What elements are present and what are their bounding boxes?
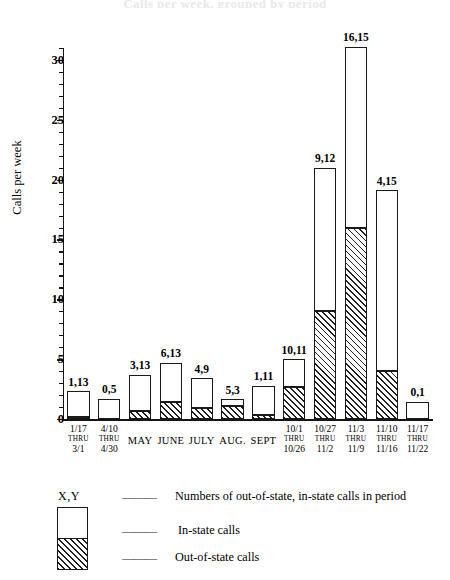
bar: 16,15 — [345, 47, 367, 419]
y-tick-label: 30 — [30, 54, 64, 67]
y-tick-label: 5 — [30, 353, 64, 366]
x-axis-label: 11/3THRU11/9 — [341, 424, 372, 455]
bar-segment-out-of-state — [67, 417, 89, 419]
x-axis-label-line2: THRU — [310, 435, 341, 444]
bar-value-label: 10,11 — [282, 345, 307, 357]
bar-segment-in-state — [67, 391, 89, 417]
bar: 0,5 — [98, 399, 120, 419]
legend-dash-2: ——— — [122, 524, 157, 539]
bar: 4,9 — [191, 378, 213, 419]
x-axis-label-line3: 11/16 — [371, 444, 402, 455]
x-axis-label: JUNE — [156, 424, 187, 436]
y-axis-title: Calls per week — [10, 108, 25, 248]
bar: 1,13 — [67, 391, 89, 419]
bar: 4,15 — [376, 190, 398, 419]
bar-value-label: 6,13 — [161, 348, 181, 360]
y-tick-label: 0 — [30, 413, 64, 426]
x-axis-label-line2: THRU — [402, 435, 433, 444]
bar-segment-in-state — [221, 399, 243, 406]
x-axis-label: 10/1THRU10/26 — [279, 424, 310, 455]
x-axis-label-line2: THRU — [63, 435, 94, 444]
x-axis-label: SEPT — [248, 424, 279, 436]
bar-value-label: 1,13 — [68, 377, 88, 389]
bar: 5,3 — [221, 399, 243, 419]
bar: 3,13 — [129, 375, 151, 419]
legend-label-numbers: Numbers of out-of-state, in-state calls … — [175, 489, 406, 504]
bar-segment-in-state — [283, 359, 305, 387]
x-axis-label-line1: MAY — [125, 435, 156, 447]
x-axis-label-line2: THRU — [371, 435, 402, 444]
x-axis-label: 11/17THRU11/22 — [402, 424, 433, 455]
bar-value-label: 4,9 — [195, 364, 209, 376]
bar-segment-in-state — [191, 378, 213, 407]
bar-value-label: 5,3 — [225, 385, 239, 397]
bar-chart: Calls per week 051015202530 1,130,53,136… — [0, 0, 450, 470]
x-axis-label: AUG. — [217, 424, 248, 436]
bar-segment-out-of-state — [283, 387, 305, 419]
bar-value-label: 16,15 — [343, 32, 369, 44]
x-axis-line — [63, 419, 433, 421]
bar-value-label: 4,15 — [377, 176, 397, 188]
chart-page: Calls per week, grouped by period Calls … — [0, 0, 450, 580]
x-axis-label-line3: 4/30 — [94, 444, 125, 455]
bar-segment-in-state — [345, 47, 367, 228]
x-axis-label: 10/27THRU11/2 — [310, 424, 341, 455]
x-axis-label: 11/10THRU11/16 — [371, 424, 402, 455]
x-axis-label: MAY — [125, 424, 156, 436]
bar-value-label: 1,11 — [254, 371, 274, 383]
bar-segment-in-state — [252, 386, 274, 416]
x-axis-label-line1: JULY — [186, 435, 217, 447]
x-axis-label: 4/10THRU4/30 — [94, 424, 125, 455]
legend-label-in-state: In-state calls — [178, 523, 240, 538]
y-tick-label: 15 — [30, 233, 64, 246]
x-axis-label-line3: 11/22 — [402, 444, 433, 455]
bar-segment-in-state — [406, 402, 428, 419]
x-axis-label-line1: AUG. — [217, 435, 248, 447]
x-axis-label: JULY — [186, 424, 217, 436]
legend-label-out-of-state: Out-of-state calls — [175, 550, 259, 565]
x-axis-label-line1: JUNE — [156, 435, 187, 447]
bar: 0,1 — [406, 402, 428, 419]
bar-segment-out-of-state — [345, 228, 367, 419]
x-axis-label-line3: 3/1 — [63, 444, 94, 455]
x-axis-label-line2: THRU — [341, 435, 372, 444]
bar-segment-out-of-state — [191, 408, 213, 419]
x-axis-label-line3: 11/2 — [310, 444, 341, 455]
x-axis-label-line2: THRU — [279, 435, 310, 444]
bar-segment-out-of-state — [160, 402, 182, 419]
legend-dash-1: ——— — [122, 490, 157, 505]
legend-xy-symbol: X,Y — [58, 489, 80, 504]
y-tick-label: 25 — [30, 114, 64, 127]
bar-segment-out-of-state — [129, 411, 151, 419]
bar: 9,12 — [314, 168, 336, 419]
bar-segment-out-of-state — [252, 415, 274, 419]
bar-segment-in-state — [160, 363, 182, 402]
y-tick-label: 10 — [30, 293, 64, 306]
x-axis-category-labels: 1/17THRU3/14/10THRU4/30MAYJUNEJULYAUG.SE… — [63, 424, 433, 470]
bar-value-label: 9,12 — [315, 153, 335, 165]
x-axis-label-line1: SEPT — [248, 435, 279, 447]
bar-segment-in-state — [129, 375, 151, 411]
bar-value-label: 0,5 — [102, 384, 116, 396]
bar-value-label: 3,13 — [130, 360, 150, 372]
bar-segment-in-state — [314, 168, 336, 312]
bar-segment-out-of-state — [221, 406, 243, 419]
legend-dash-3: ——— — [122, 551, 157, 566]
bar-value-label: 0,1 — [410, 387, 424, 399]
bar-segment-in-state — [98, 399, 120, 419]
bar: 6,13 — [160, 363, 182, 419]
x-axis-label-line3: 11/9 — [341, 444, 372, 455]
bar-segment-in-state — [376, 190, 398, 371]
x-axis-label-line2: THRU — [94, 435, 125, 444]
bar-segment-out-of-state — [376, 371, 398, 419]
y-tick-label: 20 — [30, 174, 64, 187]
legend-swatch-stacked-bar — [57, 507, 88, 570]
bar: 10,11 — [283, 359, 305, 419]
plot-area: 1,130,53,136,134,95,31,1110,119,1216,154… — [63, 48, 433, 419]
chart-legend: X,Y ——— Numbers of out-of-state, in-stat… — [0, 487, 450, 580]
bar: 1,11 — [252, 386, 274, 420]
x-axis-label-line3: 10/26 — [279, 444, 310, 455]
x-axis-label: 1/17THRU3/1 — [63, 424, 94, 455]
bar-segment-out-of-state — [314, 311, 336, 419]
legend-swatch-out-of-state — [58, 538, 87, 569]
